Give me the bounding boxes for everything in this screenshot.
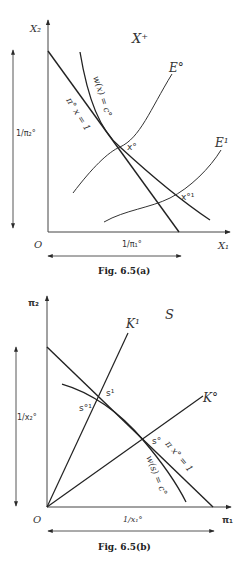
region-label-b: S bbox=[165, 307, 174, 322]
k1-label: K¹ bbox=[125, 317, 140, 331]
point-s0-label: s° bbox=[152, 436, 161, 446]
origin-label-b: O bbox=[33, 514, 41, 525]
left-interval-label-a: 1/π₂° bbox=[16, 129, 36, 138]
caption-a: Fig. 6.5(a) bbox=[98, 266, 150, 276]
origin-label-a: O bbox=[34, 239, 42, 250]
indifference-label-a: w(x) = c° bbox=[91, 75, 114, 119]
left-interval-label-b: 1/x₂° bbox=[17, 413, 37, 422]
budget-label-b: π x° = 1 bbox=[163, 438, 195, 474]
budget-line-b bbox=[47, 347, 213, 507]
e0-label: E° bbox=[168, 61, 184, 75]
x-axis-label-a: X₁ bbox=[217, 240, 229, 251]
bottom-interval-label-b: 1/x₁° bbox=[123, 515, 143, 524]
point-x01-label: x°¹ bbox=[181, 192, 195, 202]
point-s1-label: s¹ bbox=[106, 388, 115, 398]
point-x0-label: x° bbox=[127, 142, 137, 152]
y-axis-label-a: X₂ bbox=[29, 23, 41, 34]
caption-b: Fig. 6.5(b) bbox=[98, 542, 151, 552]
e1-label: E¹ bbox=[214, 136, 229, 150]
bottom-interval-label-a: 1/π₁° bbox=[122, 240, 142, 249]
budget-label-a: π° x = 1 bbox=[64, 95, 93, 133]
y-axis-label-b: π₂ bbox=[28, 298, 39, 308]
k0-label: K° bbox=[202, 391, 218, 405]
figure-a: X₂ X⁺ E° E¹ x° x°¹ w(x) = c° π° x = 1 1/… bbox=[13, 20, 230, 276]
point-s01-label: s°¹ bbox=[79, 403, 92, 413]
figure-b: π₂ S K¹ K° s¹ s°¹ s° π x° = 1 w(s) = c° … bbox=[16, 296, 233, 552]
region-label-a: X⁺ bbox=[131, 31, 148, 46]
curve-e1 bbox=[104, 150, 221, 222]
x-axis-label-b: π₁ bbox=[222, 515, 233, 525]
curve-e0 bbox=[73, 74, 172, 193]
figure-canvas: X₂ X⁺ E° E¹ x° x°¹ w(x) = c° π° x = 1 1/… bbox=[0, 0, 244, 571]
